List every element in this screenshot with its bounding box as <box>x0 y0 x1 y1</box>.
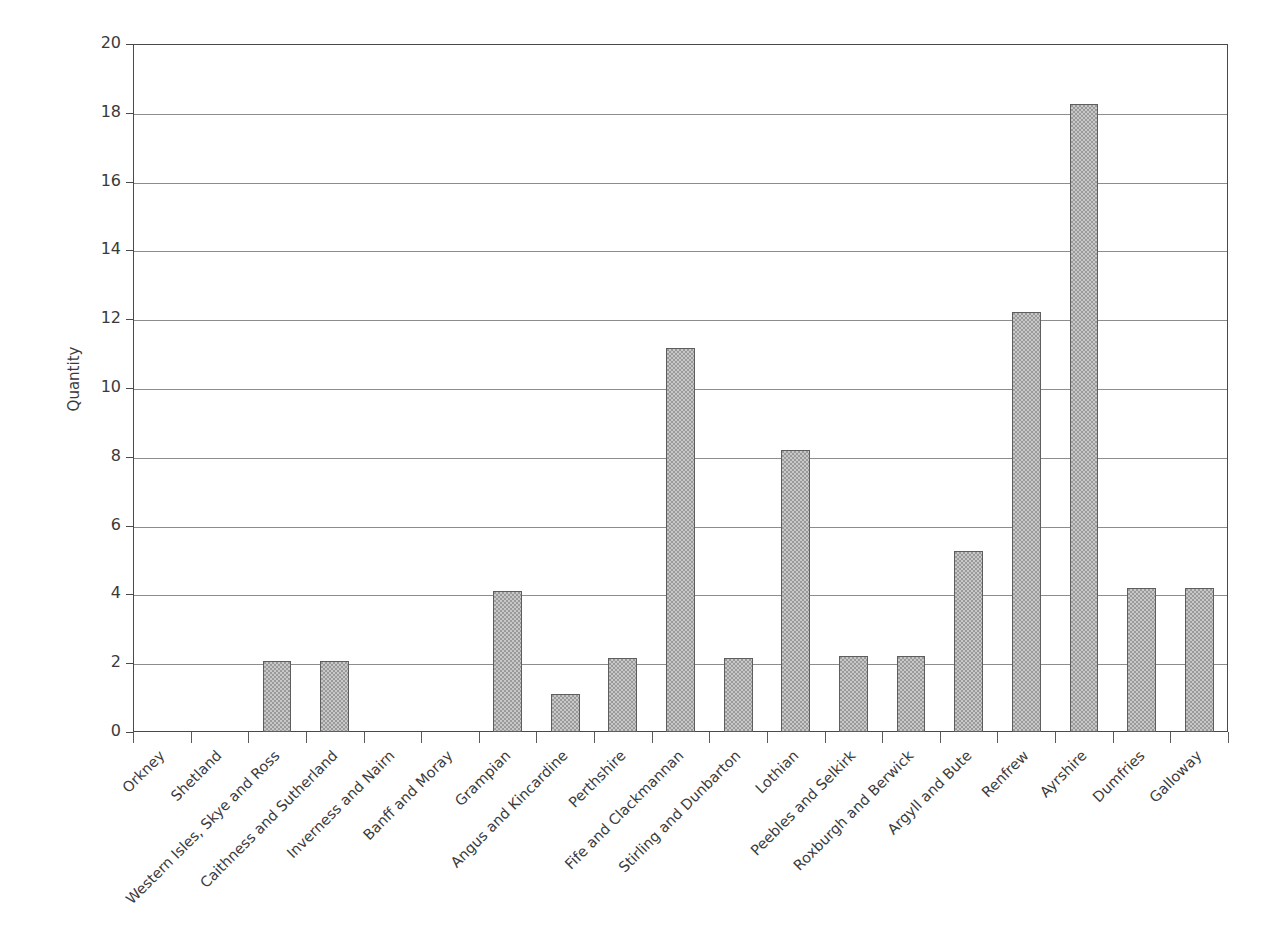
bar-chart: Quantity 02468101214161820 OrkneyShetlan… <box>0 0 1269 946</box>
x-tick-label: Galloway <box>981 747 1204 946</box>
x-axis-labels: OrkneyShetlandWestern Isles, Skye and Ro… <box>0 0 1269 946</box>
x-tick-label: Orkney <box>0 747 167 946</box>
